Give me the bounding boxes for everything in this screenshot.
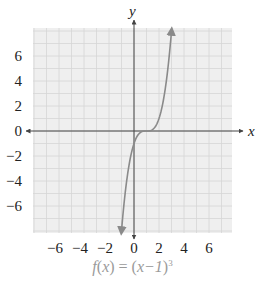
caption-rhs: x−1 (137, 258, 163, 275)
y-tick-label: 6 (15, 48, 23, 64)
x-tick-label: 4 (180, 240, 188, 256)
function-graph: 6420−2−4−6−6−4−20246 x y (0, 0, 265, 295)
function-caption: f(x) = (x−1)3 (0, 258, 265, 276)
x-tick-label: 6 (205, 240, 213, 256)
y-tick-label: −6 (6, 198, 22, 214)
y-tick-label: −2 (6, 148, 22, 164)
x-tick-label: −6 (47, 240, 63, 256)
y-tick-label: 4 (15, 73, 23, 89)
caption-exponent: 3 (168, 258, 173, 268)
y-tick-label: −4 (6, 173, 22, 189)
x-tick-label: 2 (155, 240, 163, 256)
caption-eq: = (119, 258, 128, 275)
x-axis-label: x (247, 123, 255, 139)
x-tick-label: −2 (97, 240, 113, 256)
x-tick-label: −4 (72, 240, 88, 256)
y-axis-label: y (127, 3, 136, 19)
y-tick-label: 0 (15, 123, 23, 139)
y-tick-label: 2 (15, 98, 23, 114)
x-tick-label: 0 (130, 240, 138, 256)
